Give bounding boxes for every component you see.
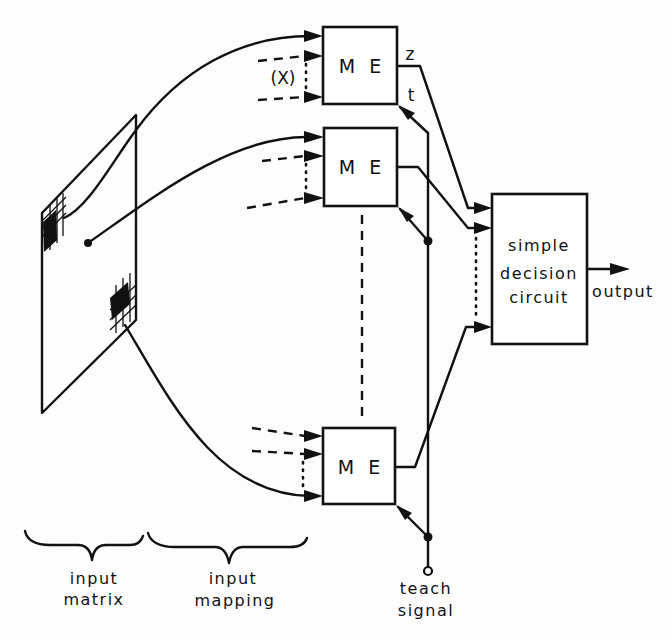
- svg-text:signal: signal: [398, 601, 454, 620]
- svg-text:circuit: circuit: [509, 288, 569, 307]
- brace-icon: [148, 533, 307, 563]
- section-input-matrix: input matrix: [25, 531, 143, 609]
- mapping-line-3: [125, 325, 310, 496]
- svg-text:mapping: mapping: [195, 591, 276, 610]
- svg-text:M E: M E: [339, 156, 385, 178]
- input-mapping: (X): [64, 30, 362, 502]
- input-arrow-icons: [304, 30, 324, 502]
- svg-text:teach: teach: [400, 579, 452, 598]
- svg-text:input: input: [209, 569, 258, 588]
- svg-text:decision: decision: [500, 264, 578, 283]
- me-element-2: M E: [324, 128, 397, 206]
- teach-arrow-icon: [398, 207, 414, 222]
- svg-text:matrix: matrix: [63, 590, 124, 609]
- receptive-patch-upper: [43, 193, 66, 252]
- diagram-canvas: (X) M E M E M E: [0, 0, 672, 641]
- me-element-1: M E: [323, 27, 397, 104]
- me-outputs: z t: [395, 44, 492, 467]
- teach-signal-terminal: [424, 567, 432, 575]
- svg-text:simple: simple: [508, 236, 570, 255]
- me-element-3: M E: [323, 428, 395, 504]
- mapping-line-1: [64, 36, 310, 218]
- svg-text:input: input: [70, 569, 119, 588]
- matrix-plane: [42, 115, 136, 413]
- svg-text:M E: M E: [338, 456, 384, 478]
- teach-t-label: t: [408, 85, 415, 105]
- output-z-label: z: [406, 44, 415, 64]
- input-vector-label: (X): [271, 68, 296, 88]
- output-arrow-icon: [610, 263, 630, 275]
- teach-signal-bus: teach signal: [396, 105, 454, 620]
- brace-icon: [25, 531, 143, 560]
- section-input-mapping: input mapping: [148, 533, 307, 610]
- svg-text:M E: M E: [339, 55, 385, 77]
- svg-text:output: output: [592, 282, 654, 301]
- output: output: [587, 263, 654, 301]
- decision-circuit: simple decision circuit: [492, 194, 587, 344]
- input-matrix: [42, 115, 136, 413]
